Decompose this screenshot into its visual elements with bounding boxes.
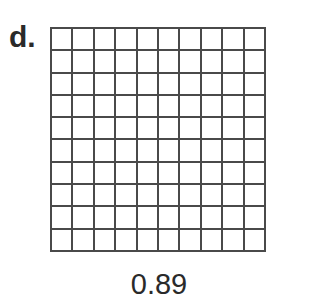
grid-cell[interactable] (52, 163, 73, 185)
grid-cell[interactable] (180, 118, 201, 140)
grid-cell[interactable] (95, 29, 116, 51)
grid-cell[interactable] (159, 51, 180, 73)
grid-cell[interactable] (202, 74, 223, 96)
grid-cell[interactable] (202, 140, 223, 162)
grid-cell[interactable] (95, 118, 116, 140)
grid-cell[interactable] (223, 140, 244, 162)
grid-cell[interactable] (116, 96, 137, 118)
grid-cell[interactable] (52, 140, 73, 162)
grid-cell[interactable] (138, 74, 159, 96)
grid-cell[interactable] (159, 207, 180, 229)
grid-cell[interactable] (73, 163, 94, 185)
grid-cell[interactable] (223, 207, 244, 229)
grid-cell[interactable] (159, 96, 180, 118)
grid-cell[interactable] (95, 96, 116, 118)
grid-cell[interactable] (202, 29, 223, 51)
grid-cell[interactable] (95, 140, 116, 162)
grid-cell[interactable] (245, 118, 266, 140)
grid-cell[interactable] (180, 163, 201, 185)
grid-cell[interactable] (202, 96, 223, 118)
grid-cell[interactable] (202, 185, 223, 207)
grid-cell[interactable] (73, 230, 94, 252)
grid-cell[interactable] (116, 74, 137, 96)
grid-cell[interactable] (52, 51, 73, 73)
grid-cell[interactable] (202, 207, 223, 229)
grid-cell[interactable] (245, 207, 266, 229)
grid-cell[interactable] (180, 51, 201, 73)
grid-cell[interactable] (180, 74, 201, 96)
grid-cell[interactable] (116, 140, 137, 162)
grid-cell[interactable] (245, 230, 266, 252)
grid-cell[interactable] (116, 230, 137, 252)
grid-cell[interactable] (138, 207, 159, 229)
grid-cell[interactable] (116, 185, 137, 207)
grid-cell[interactable] (202, 51, 223, 73)
grid-cell[interactable] (52, 230, 73, 252)
grid-cell[interactable] (159, 74, 180, 96)
grid-cell[interactable] (159, 163, 180, 185)
grid-cell[interactable] (245, 51, 266, 73)
grid-cell[interactable] (95, 185, 116, 207)
grid-cell[interactable] (159, 230, 180, 252)
grid-cell[interactable] (245, 185, 266, 207)
grid-cell[interactable] (180, 29, 201, 51)
grid-cell[interactable] (116, 29, 137, 51)
grid-cell[interactable] (73, 29, 94, 51)
grid-cell[interactable] (138, 163, 159, 185)
grid-cell[interactable] (116, 118, 137, 140)
grid-cell[interactable] (52, 118, 73, 140)
grid-cell[interactable] (138, 96, 159, 118)
grid-cell[interactable] (73, 207, 94, 229)
grid-cell[interactable] (52, 207, 73, 229)
grid-cell[interactable] (138, 51, 159, 73)
grid-cell[interactable] (95, 163, 116, 185)
grid-cell[interactable] (73, 118, 94, 140)
grid-cell[interactable] (223, 118, 244, 140)
grid-cell[interactable] (180, 230, 201, 252)
grid-cell[interactable] (138, 140, 159, 162)
grid-cell[interactable] (138, 230, 159, 252)
grid-cell[interactable] (116, 163, 137, 185)
grid-cell[interactable] (138, 185, 159, 207)
grid-cell[interactable] (116, 51, 137, 73)
grid-cell[interactable] (138, 29, 159, 51)
grid-cell[interactable] (223, 96, 244, 118)
grid-cell[interactable] (73, 74, 94, 96)
grid-cell[interactable] (202, 230, 223, 252)
grid-cell[interactable] (116, 207, 137, 229)
grid-cell[interactable] (95, 230, 116, 252)
grid-cell[interactable] (73, 96, 94, 118)
grid-cell[interactable] (95, 207, 116, 229)
grid-cell[interactable] (180, 185, 201, 207)
grid-cell[interactable] (138, 118, 159, 140)
grid-cell[interactable] (73, 185, 94, 207)
grid-cell[interactable] (245, 29, 266, 51)
grid-cell[interactable] (73, 140, 94, 162)
grid-cell[interactable] (180, 96, 201, 118)
grid-cell[interactable] (159, 118, 180, 140)
grid-cell[interactable] (95, 51, 116, 73)
grid-cell[interactable] (223, 51, 244, 73)
grid-cell[interactable] (223, 185, 244, 207)
grid-cell[interactable] (223, 74, 244, 96)
grid-cell[interactable] (52, 185, 73, 207)
grid-cell[interactable] (95, 74, 116, 96)
grid-cell[interactable] (223, 230, 244, 252)
grid-cell[interactable] (159, 185, 180, 207)
grid-cell[interactable] (245, 96, 266, 118)
grid-cell[interactable] (202, 118, 223, 140)
grid-cell[interactable] (245, 163, 266, 185)
grid-cell[interactable] (159, 140, 180, 162)
grid-cell[interactable] (245, 140, 266, 162)
grid-cell[interactable] (52, 74, 73, 96)
grid-cell[interactable] (223, 29, 244, 51)
grid-cell[interactable] (202, 163, 223, 185)
grid-cell[interactable] (180, 207, 201, 229)
grid-cell[interactable] (159, 29, 180, 51)
grid-cell[interactable] (223, 163, 244, 185)
grid-cell[interactable] (52, 29, 73, 51)
grid-cell[interactable] (245, 74, 266, 96)
grid-cell[interactable] (180, 140, 201, 162)
grid-cell[interactable] (73, 51, 94, 73)
grid-cell[interactable] (52, 96, 73, 118)
